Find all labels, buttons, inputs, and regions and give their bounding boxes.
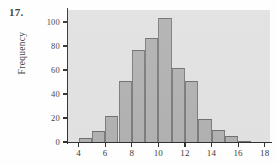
histogram-figure: 17. Frequency 020406080100 4681012141618 (0, 0, 277, 164)
y-tick-mark (63, 117, 67, 118)
y-tick-mark (63, 141, 67, 142)
histogram-bar (172, 68, 185, 142)
x-tick-label: 4 (67, 148, 91, 158)
x-tick-mark (211, 143, 212, 147)
x-tick-label: 16 (226, 148, 250, 158)
histogram-bar (212, 130, 225, 142)
y-axis-line (67, 8, 68, 144)
x-tick-label: 12 (173, 148, 197, 158)
x-tick-mark (105, 143, 106, 147)
histogram-bar (92, 131, 105, 142)
plot-area (68, 10, 270, 142)
y-tick-label: 0 (20, 137, 60, 147)
x-tick-label: 18 (253, 148, 277, 158)
x-tick-mark (238, 143, 239, 147)
histogram-chart: Frequency 020406080100 4681012141618 (0, 0, 277, 164)
y-tick-mark (63, 69, 67, 70)
x-tick-mark (158, 143, 159, 147)
y-tick-label: 100 (20, 17, 60, 27)
histogram-bar (185, 81, 198, 142)
x-tick-mark (78, 143, 79, 147)
y-tick-label: 20 (20, 113, 60, 123)
y-tick-mark (63, 93, 67, 94)
y-tick-label: 80 (20, 41, 60, 51)
x-axis-line (67, 142, 272, 143)
histogram-bar (145, 38, 158, 142)
histogram-bar (119, 81, 132, 142)
histogram-bar (198, 119, 211, 142)
x-tick-label: 14 (200, 148, 224, 158)
y-tick-label: 60 (20, 65, 60, 75)
x-tick-mark (184, 143, 185, 147)
x-tick-mark (131, 143, 132, 147)
x-tick-mark (264, 143, 265, 147)
histogram-bar (105, 116, 118, 142)
x-tick-label: 10 (146, 148, 170, 158)
x-tick-label: 6 (93, 148, 117, 158)
histogram-bar (132, 50, 145, 142)
x-tick-label: 8 (120, 148, 144, 158)
y-tick-mark (63, 45, 67, 46)
histogram-bar (158, 18, 171, 142)
y-tick-label: 40 (20, 89, 60, 99)
y-tick-mark (63, 21, 67, 22)
